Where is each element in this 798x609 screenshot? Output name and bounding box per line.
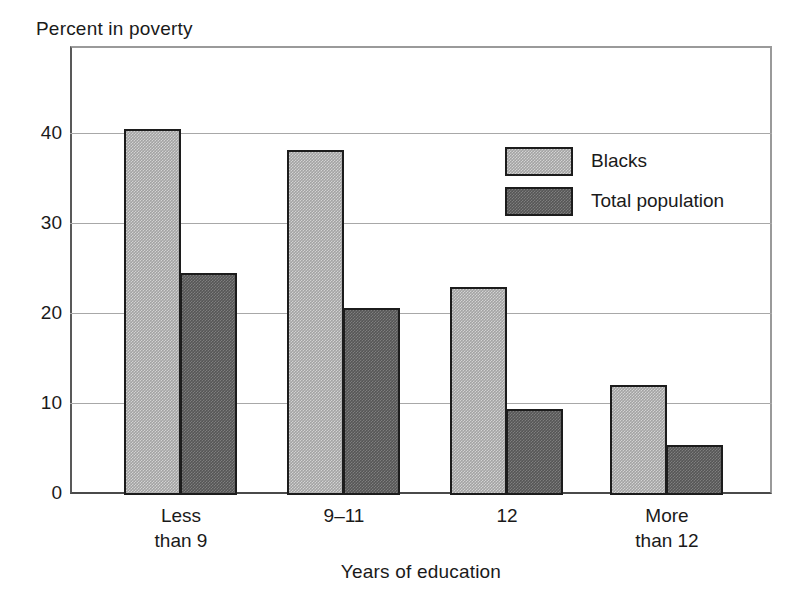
bar-total-population-more-than-12 <box>666 445 723 495</box>
y-tick-label-10: 10 <box>4 392 62 414</box>
x-category-label-4: More than 12 <box>607 503 727 553</box>
bar-blacks-12 <box>450 287 507 495</box>
y-tick-label-30: 30 <box>4 212 62 234</box>
y-axis-title: Percent in poverty <box>36 18 193 40</box>
legend: Blacks Total population <box>505 146 724 226</box>
bar-blacks-9-11 <box>287 150 344 495</box>
y-tick-label-20: 20 <box>4 302 62 324</box>
legend-label-blacks: Blacks <box>591 150 647 172</box>
y-tick-label-40: 40 <box>4 122 62 144</box>
bar-total-population-12 <box>506 409 563 495</box>
legend-item-blacks: Blacks <box>505 146 724 176</box>
bar-total-population-9-11 <box>343 308 400 495</box>
x-category-label-3: 12 <box>447 503 567 528</box>
legend-swatch-blacks <box>505 147 573 176</box>
x-category-label-2: 9–11 <box>284 503 404 528</box>
legend-item-total-population: Total population <box>505 186 724 216</box>
x-axis-title: Years of education <box>70 561 772 583</box>
y-tick-label-0: 0 <box>4 482 62 504</box>
x-category-label-1: Less than 9 <box>121 503 241 553</box>
bar-blacks-less-than-9 <box>124 129 181 495</box>
legend-swatch-total-population <box>505 187 573 216</box>
bar-total-population-less-than-9 <box>180 273 237 495</box>
bar-blacks-more-than-12 <box>610 385 667 495</box>
legend-label-total-population: Total population <box>591 190 724 212</box>
bar-chart: Percent in poverty 40 30 20 10 0 Less th… <box>0 0 798 609</box>
